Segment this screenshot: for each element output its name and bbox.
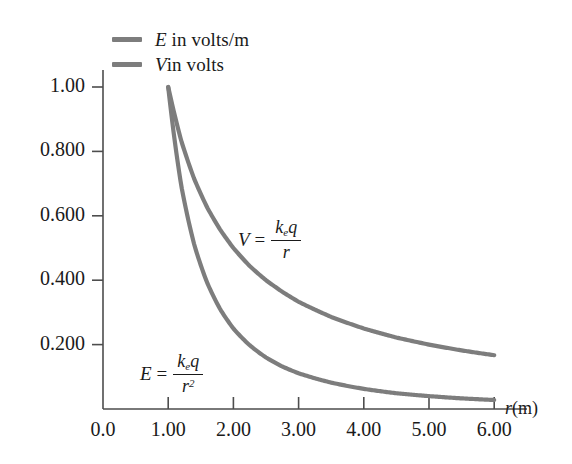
annotation-e-q: q (190, 351, 199, 371)
legend-item-v: Vin volts (112, 53, 249, 75)
legend-unit-v: in volts (167, 54, 224, 75)
annotation-v-numerator: keq (271, 218, 301, 240)
y-tick-label: 0.800 (12, 138, 85, 161)
curve-e-field (168, 87, 494, 400)
y-tick-label: 0.400 (12, 267, 85, 290)
annotation-v-fraction: keq r (271, 218, 301, 261)
annotation-e-symbol: E (140, 363, 152, 385)
annotation-e-equals: = (157, 363, 168, 385)
x-tick-label: 6.00 (454, 418, 534, 441)
legend-symbol-e: E (155, 29, 167, 50)
legend-item-e: E in volts/m (112, 28, 249, 50)
y-tick-label: 1.00 (12, 74, 85, 97)
legend: E in volts/m Vin volts (112, 28, 249, 75)
legend-swatch-e (112, 37, 142, 42)
annotation-e-exponent: 2 (189, 377, 195, 389)
y-axis-ticks (92, 87, 103, 345)
figure-container: E in volts/m Vin volts V = keq r E = keq… (0, 0, 572, 464)
legend-label-v: Vin volts (155, 55, 224, 74)
annotation-v-equation: V = keq r (238, 218, 301, 261)
x-axis-label-unit: (m) (512, 398, 538, 418)
legend-swatch-v (112, 62, 142, 67)
annotation-e-numerator: keq (173, 352, 203, 374)
legend-label-e: E in volts/m (155, 30, 249, 49)
curve-v-potential (168, 87, 494, 355)
annotation-e-r: r (182, 376, 189, 396)
annotation-v-denominator: r (279, 241, 294, 261)
annotation-e-denominator: r2 (178, 375, 199, 395)
x-axis-label-symbol: r (505, 398, 512, 418)
legend-symbol-v: V (155, 54, 167, 75)
y-tick-label: 0.600 (12, 203, 85, 226)
annotation-e-fraction: keq r2 (173, 352, 203, 395)
legend-unit-e: in volts/m (167, 29, 249, 50)
annotation-v-symbol: V (238, 229, 250, 251)
annotation-e-equation: E = keq r2 (140, 352, 203, 395)
x-axis-label: r(m) (505, 398, 538, 419)
annotation-v-q: q (288, 217, 297, 237)
annotation-v-equals: = (255, 229, 266, 251)
y-tick-label: 0.200 (12, 332, 85, 355)
